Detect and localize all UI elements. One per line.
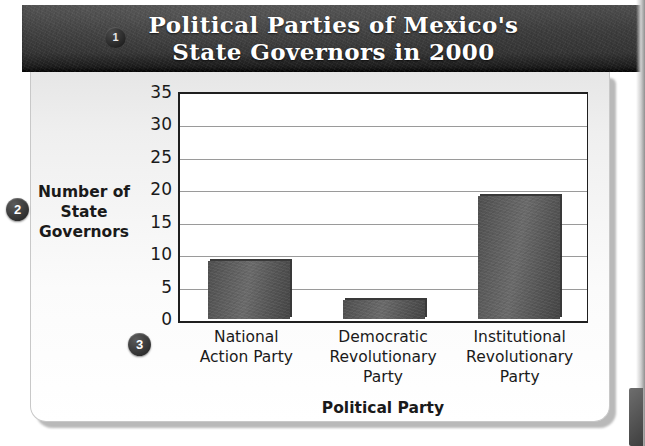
bar-slot — [317, 96, 452, 319]
y-tick-label: 10 — [130, 243, 172, 265]
y-tick-label: 25 — [130, 146, 172, 168]
bar[interactable] — [343, 300, 425, 319]
bar[interactable] — [208, 261, 290, 319]
y-tick-label: 5 — [130, 276, 172, 298]
plot-area — [178, 92, 588, 323]
plot-wrapper: 35302520151050 — [178, 92, 588, 323]
x-tick-label: National Action Party — [178, 327, 315, 387]
page-edge-right — [636, 0, 645, 446]
callout-marker-2[interactable]: 2 — [6, 198, 29, 221]
x-axis-title: Political Party — [178, 398, 588, 418]
y-tick-label: 0 — [130, 308, 172, 330]
y-tick-label: 30 — [130, 113, 172, 135]
bar-slot — [451, 96, 586, 319]
y-tick-label: 35 — [130, 81, 172, 103]
x-axis-tick-labels: National Action PartyDemocratic Revoluti… — [178, 327, 588, 387]
x-tick-label: Democratic Revolutionary Party — [315, 327, 452, 387]
bar[interactable] — [478, 196, 560, 319]
callout-marker-1[interactable]: 1 — [105, 27, 126, 48]
bar-slot — [182, 96, 317, 319]
x-tick-label: Institutional Revolutionary Party — [451, 327, 588, 387]
y-axis-title: Number of State Governors — [28, 182, 140, 242]
figure-root: Political Parties of Mexico's State Gove… — [0, 0, 645, 446]
bar-series — [182, 96, 586, 319]
callout-marker-3[interactable]: 3 — [128, 333, 151, 356]
page-corner-artifact — [629, 388, 643, 446]
